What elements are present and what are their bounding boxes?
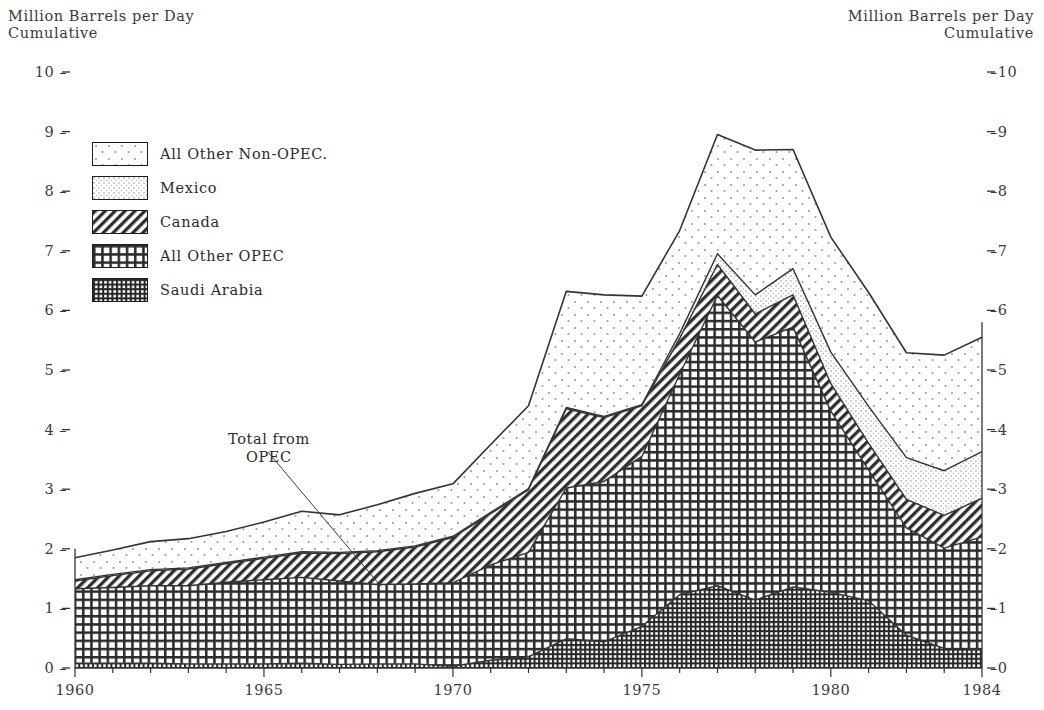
y-tick-label-left-10: 10 – [35,64,67,80]
y-tick-label-left-1: 1 – [44,600,67,616]
legend-item-all-other-non-opec[interactable]: All Other Non-OPEC. [92,142,328,166]
legend-label-all-other-non-opec: All Other Non-OPEC. [160,146,328,162]
y-tick-label-left-9: 9 – [44,124,67,140]
x-tick-label-1970: 1970 [433,682,472,698]
total-from-opec-annotation: Total from OPEC [228,430,310,466]
y-tick-label-right-0: –0 [990,660,1007,676]
y-tick-label-right-9: –9 [990,124,1007,140]
area-chart-plot [0,0,1044,710]
legend-swatch-all-other-non-opec [92,142,148,166]
legend-item-saudi-arabia[interactable]: Saudi Arabia [92,278,263,302]
legend-item-all-other-opec[interactable]: All Other OPEC [92,244,285,268]
legend-swatch-canada [92,210,148,234]
right-axis-title: Million Barrels per Day Cumulative [848,8,1034,42]
x-tick-label-1965: 1965 [245,682,284,698]
y-tick-label-right-10: –10 [990,64,1017,80]
legend-swatch-all-other-opec [92,244,148,268]
y-tick-label-right-4: –4 [990,422,1007,438]
y-tick-label-right-8: –8 [990,183,1007,199]
legend-label-all-other-opec: All Other OPEC [160,248,285,264]
left-axis-title: Million Barrels per Day Cumulative [8,8,194,42]
x-tick-label-1975: 1975 [622,682,661,698]
y-tick-label-left-6: 6 – [44,302,67,318]
x-tick-label-1960: 1960 [56,682,95,698]
legend-swatch-saudi-arabia [92,278,148,302]
y-tick-label-right-3: –3 [990,481,1007,497]
y-tick-label-right-1: –1 [990,600,1007,616]
x-tick-label-1980: 1980 [811,682,850,698]
legend-label-canada: Canada [160,214,220,230]
y-tick-label-left-8: 8 – [44,183,67,199]
x-tick-label-1984: 1984 [963,682,1002,698]
legend-item-mexico[interactable]: Mexico [92,176,217,200]
y-tick-label-right-5: –5 [990,362,1007,378]
legend-item-canada[interactable]: Canada [92,210,220,234]
y-tick-label-left-4: 4 – [44,422,67,438]
legend-label-mexico: Mexico [160,180,217,196]
y-tick-label-left-2: 2 – [44,541,67,557]
y-tick-label-right-2: –2 [990,541,1007,557]
legend-label-saudi-arabia: Saudi Arabia [160,282,263,298]
y-tick-label-right-6: –6 [990,302,1007,318]
y-tick-label-right-7: –7 [990,243,1007,259]
y-tick-label-left-5: 5 – [44,362,67,378]
legend-swatch-mexico [92,176,148,200]
chart-canvas: Million Barrels per Day Cumulative Milli… [0,0,1044,710]
y-tick-label-left-7: 7 – [44,243,67,259]
y-tick-label-left-0: 0 – [44,660,67,676]
y-tick-label-left-3: 3 – [44,481,67,497]
